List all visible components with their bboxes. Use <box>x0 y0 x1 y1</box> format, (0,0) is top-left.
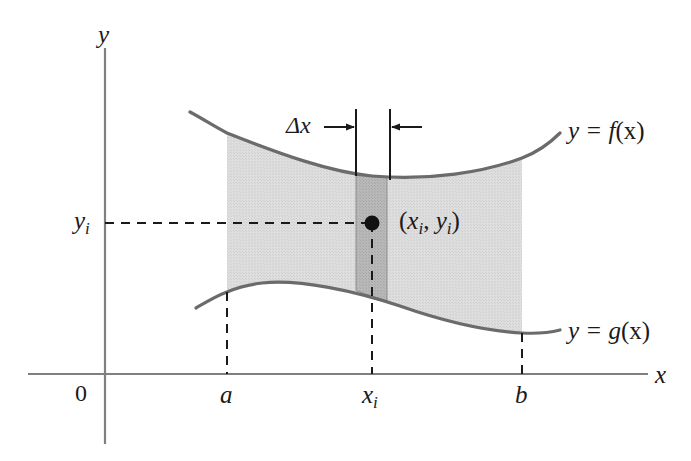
sample-point-paren-close: ) <box>452 207 460 234</box>
y-i-subscript: i <box>85 219 90 238</box>
curve-label-g-prefix: y = <box>568 317 608 344</box>
y-i-tick-label: yi <box>74 208 90 237</box>
x-i-base: x <box>362 381 373 408</box>
sample-point-dot <box>365 216 380 231</box>
origin-label: 0 <box>75 381 87 405</box>
y-axis-label: y <box>98 22 109 47</box>
curve-label-g-name: g <box>608 317 621 344</box>
b-tick-label: b <box>515 382 528 407</box>
curve-label-f-arg: (x) <box>615 117 644 144</box>
curve-label-f-prefix: y = <box>568 117 608 144</box>
sample-point-label: (xi, yi) <box>399 208 460 237</box>
x-i-subscript: i <box>373 393 378 412</box>
diagram-svg <box>0 0 691 461</box>
x-axis-label: x <box>655 362 666 387</box>
curve-label-f: y = f(x) <box>568 118 645 143</box>
a-tick-label: a <box>220 382 233 407</box>
sample-point-separator: , <box>423 207 436 234</box>
curve-label-g: y = g(x) <box>568 318 650 343</box>
sample-point-y-base: y <box>436 207 447 234</box>
delta-x-label: Δx <box>286 113 311 137</box>
y-i-base: y <box>74 207 85 234</box>
curve-label-g-arg: (x) <box>621 317 650 344</box>
approximating-rectangle-strip <box>356 174 387 302</box>
x-i-tick-label: xi <box>362 382 378 411</box>
figure-canvas: y x 0 yi a xi b Δx (xi, yi) y = f(x) y =… <box>0 0 691 461</box>
sample-point-x-base: x <box>407 207 418 234</box>
